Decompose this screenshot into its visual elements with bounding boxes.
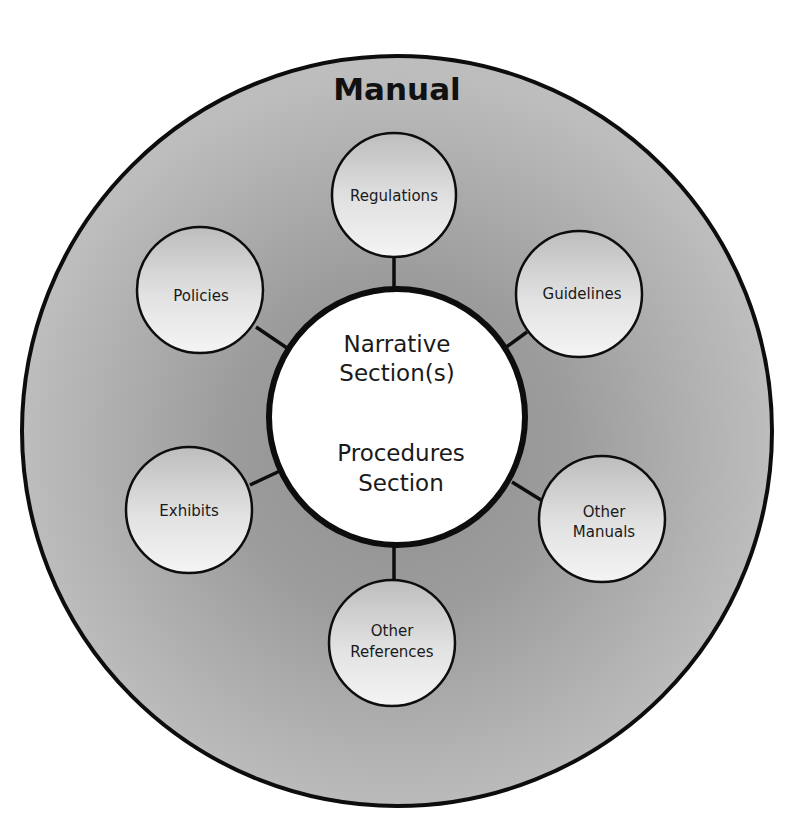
satellite-label: Policies [173, 287, 229, 305]
satellite-exhibits: Exhibits [126, 447, 252, 573]
satellite-label: Guidelines [543, 285, 622, 303]
satellite-other-references: Other References [329, 580, 455, 706]
satellite-regulations: Regulations [332, 133, 456, 257]
satellite-other-manuals: Other Manuals [539, 456, 665, 582]
center-circle [269, 289, 525, 545]
center-label-section: Section [358, 470, 443, 496]
satellite-label: Other [583, 503, 626, 521]
satellite-guidelines: Guidelines [516, 231, 642, 357]
manual-diagram: Manual Narrative Section(s) Procedures S… [0, 0, 792, 816]
satellite-label: Regulations [350, 187, 438, 205]
satellite-label: Other [371, 622, 414, 640]
center-label-sections: Section(s) [339, 360, 454, 386]
diagram-title: Manual [333, 71, 460, 107]
center-node: Narrative Section(s) Procedures Section [269, 289, 525, 545]
center-label-procedures: Procedures [337, 440, 465, 466]
satellite-policies: Policies [137, 227, 263, 353]
satellite-label: References [350, 643, 434, 661]
satellite-label: Exhibits [159, 502, 219, 520]
center-label-narrative: Narrative [343, 331, 450, 357]
satellite-label: Manuals [573, 523, 636, 541]
